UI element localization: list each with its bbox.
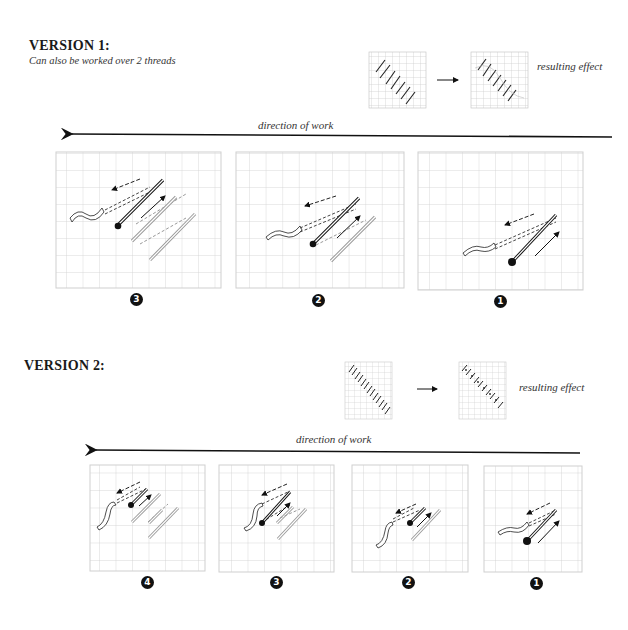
version2-title: VERSION 2: bbox=[24, 358, 105, 374]
version2-step1-panel bbox=[484, 466, 582, 572]
version2-result-preview bbox=[459, 362, 506, 419]
version1-stitch-preview bbox=[369, 52, 426, 108]
version1-direction-arrow bbox=[72, 134, 612, 137]
version1-step3-panel bbox=[56, 152, 221, 288]
version1-step2-panel bbox=[236, 152, 404, 288]
version1-result-preview bbox=[471, 52, 528, 108]
version2-step2-badge: 2 bbox=[402, 576, 415, 589]
version1-step1-panel bbox=[418, 152, 583, 290]
version2-result-label: resulting effect bbox=[519, 381, 584, 393]
version2-step4-badge: 4 bbox=[141, 576, 154, 589]
version2-step2-panel bbox=[352, 465, 468, 572]
version2-step3-panel bbox=[219, 465, 334, 572]
version2-direction-arrow bbox=[96, 450, 580, 453]
version2-step1-badge: 1 bbox=[530, 577, 543, 590]
version2-step3-badge: 3 bbox=[270, 576, 283, 589]
version1-diagrams bbox=[0, 0, 628, 630]
version1-step3-badge: 3 bbox=[130, 293, 143, 306]
version2-stitch-preview bbox=[345, 362, 392, 419]
version1-step2-badge: 2 bbox=[312, 294, 325, 307]
version2-direction-label: direction of work bbox=[296, 433, 371, 445]
version1-step1-badge: 1 bbox=[494, 295, 507, 308]
version2-step4-panel bbox=[90, 465, 205, 571]
